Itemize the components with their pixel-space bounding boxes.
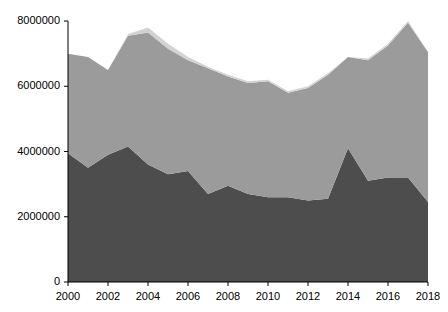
x-tick-marks — [68, 282, 428, 286]
y-tick-label: 4000000 — [17, 145, 60, 157]
stacked-area-plot — [0, 0, 448, 312]
area-series-group — [68, 21, 428, 282]
y-tick-label: 0 — [54, 275, 60, 287]
y-tick-label: 6000000 — [17, 79, 60, 91]
x-tick-label: 2018 — [403, 290, 448, 302]
y-tick-label: 8000000 — [17, 14, 60, 26]
chart-container: 02000000400000060000008000000 2000200220… — [0, 0, 448, 312]
y-tick-marks — [64, 21, 68, 282]
y-tick-label: 2000000 — [17, 210, 60, 222]
